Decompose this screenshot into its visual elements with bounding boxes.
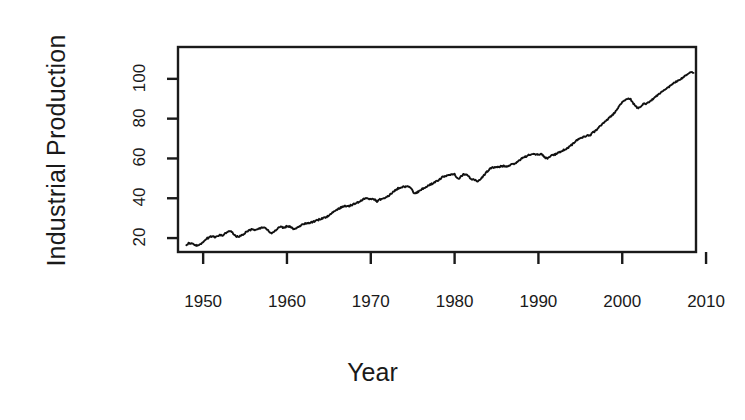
x-tick-label: 2010	[666, 292, 745, 312]
y-tick-label: 100	[120, 68, 160, 88]
x-tick-label: 1950	[163, 292, 243, 312]
x-tick-label: 1990	[498, 292, 578, 312]
plot-border	[178, 47, 696, 252]
x-tick-label: 1970	[331, 292, 411, 312]
tick-marks-group	[167, 79, 706, 264]
y-tick-label: 40	[120, 187, 160, 207]
x-tick-label: 2000	[582, 292, 662, 312]
x-tick-label: 1960	[247, 292, 327, 312]
data-line-industrial-production	[186, 72, 693, 246]
plot-area	[0, 0, 745, 420]
chart-figure: Industrial Production Year 20406080100 1…	[0, 0, 745, 420]
y-tick-label: 20	[120, 227, 160, 247]
y-tick-label: 80	[120, 108, 160, 128]
x-tick-label: 1980	[415, 292, 495, 312]
y-tick-label: 60	[120, 147, 160, 167]
